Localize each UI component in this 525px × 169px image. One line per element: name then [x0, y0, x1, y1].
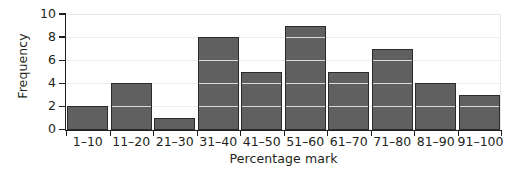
bar-gridline — [329, 83, 368, 84]
x-axis-tick-label: 41–50 — [240, 136, 284, 149]
bar-gridline — [416, 106, 455, 107]
bar-gridline — [373, 60, 412, 61]
bar-gridline — [199, 106, 238, 107]
x-axis-tick-label: 91–100 — [458, 136, 502, 149]
x-axis-tick-label: 11–20 — [110, 136, 154, 149]
bar — [198, 37, 239, 129]
bar-gridline — [199, 83, 238, 84]
y-axis-tick-label: 4 — [16, 77, 56, 90]
bar — [372, 49, 413, 130]
bar — [285, 26, 326, 130]
x-axis-tick-label: 51–60 — [284, 136, 328, 149]
bar-gridline — [242, 106, 281, 107]
bar — [67, 106, 108, 129]
bar-gridline — [460, 106, 499, 107]
bar — [241, 72, 282, 130]
bar — [328, 72, 369, 130]
x-axis-title: Percentage mark — [66, 151, 501, 166]
bar-gridline — [199, 60, 238, 61]
y-axis-tick-label: 0 — [16, 123, 56, 136]
y-axis-line — [65, 13, 66, 131]
bar-gridline — [286, 60, 325, 61]
x-axis-tick-label: 21–30 — [153, 136, 197, 149]
y-axis-tick-label: 6 — [16, 54, 56, 67]
bar-gridline — [242, 83, 281, 84]
x-axis-line — [65, 130, 502, 131]
x-axis-tick-label: 71–80 — [371, 136, 415, 149]
bar-gridline — [112, 106, 151, 107]
histogram-chart: Frequency 02468101–1011–2021–3031–4041–5… — [0, 0, 525, 169]
x-axis-tick-label: 31–40 — [197, 136, 241, 149]
bar-gridline — [373, 106, 412, 107]
y-axis-tick-label: 2 — [16, 100, 56, 113]
bar-gridline — [286, 37, 325, 38]
bar — [111, 83, 152, 129]
y-axis-tick-label: 8 — [16, 31, 56, 44]
gridline — [66, 60, 501, 61]
bar-gridline — [286, 83, 325, 84]
bar — [154, 118, 195, 130]
x-axis-tick-label: 1–10 — [66, 136, 110, 149]
bar-gridline — [286, 106, 325, 107]
gridline — [66, 14, 501, 15]
bar-gridline — [373, 83, 412, 84]
bar — [415, 83, 456, 129]
y-axis-tick-label: 10 — [16, 8, 56, 21]
bar — [459, 95, 500, 130]
gridline — [66, 37, 501, 38]
x-axis-tick-label: 81–90 — [414, 136, 458, 149]
x-axis-tick-label: 61–70 — [327, 136, 371, 149]
bar-gridline — [329, 106, 368, 107]
